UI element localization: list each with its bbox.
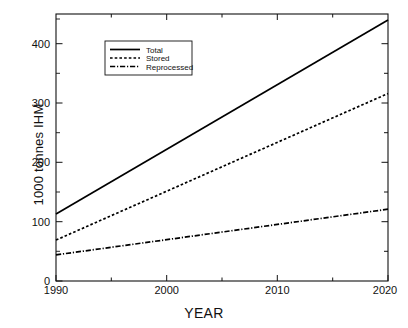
- series-line-stored: [56, 94, 388, 241]
- x-axis-top-ticks: [111, 14, 332, 20]
- y-axis-right-ticks: [382, 44, 389, 252]
- y-axis-ticks: [56, 44, 63, 281]
- x-tick-label-2010: 2010: [265, 285, 289, 296]
- y-axis-minor-ticks: [56, 19, 60, 251]
- y-axis-label: 1000 tonnes IHM: [31, 55, 46, 255]
- x-axis-label: YEAR: [0, 305, 408, 321]
- x-tick-label-1990: 1990: [44, 285, 68, 296]
- plot-canvas: [0, 0, 408, 328]
- x-axis-ticks: [56, 275, 388, 281]
- x-tick-label-2000: 2000: [154, 285, 178, 296]
- legend-label-reprocessed: Reprocessed: [146, 62, 193, 71]
- series-line-reprocessed: [56, 209, 388, 255]
- chart-figure: Total Stored Reprocessed 0 100 200 300 4…: [0, 0, 408, 328]
- x-tick-label-2020: 2020: [373, 285, 397, 296]
- y-tick-label-400: 400: [10, 38, 50, 49]
